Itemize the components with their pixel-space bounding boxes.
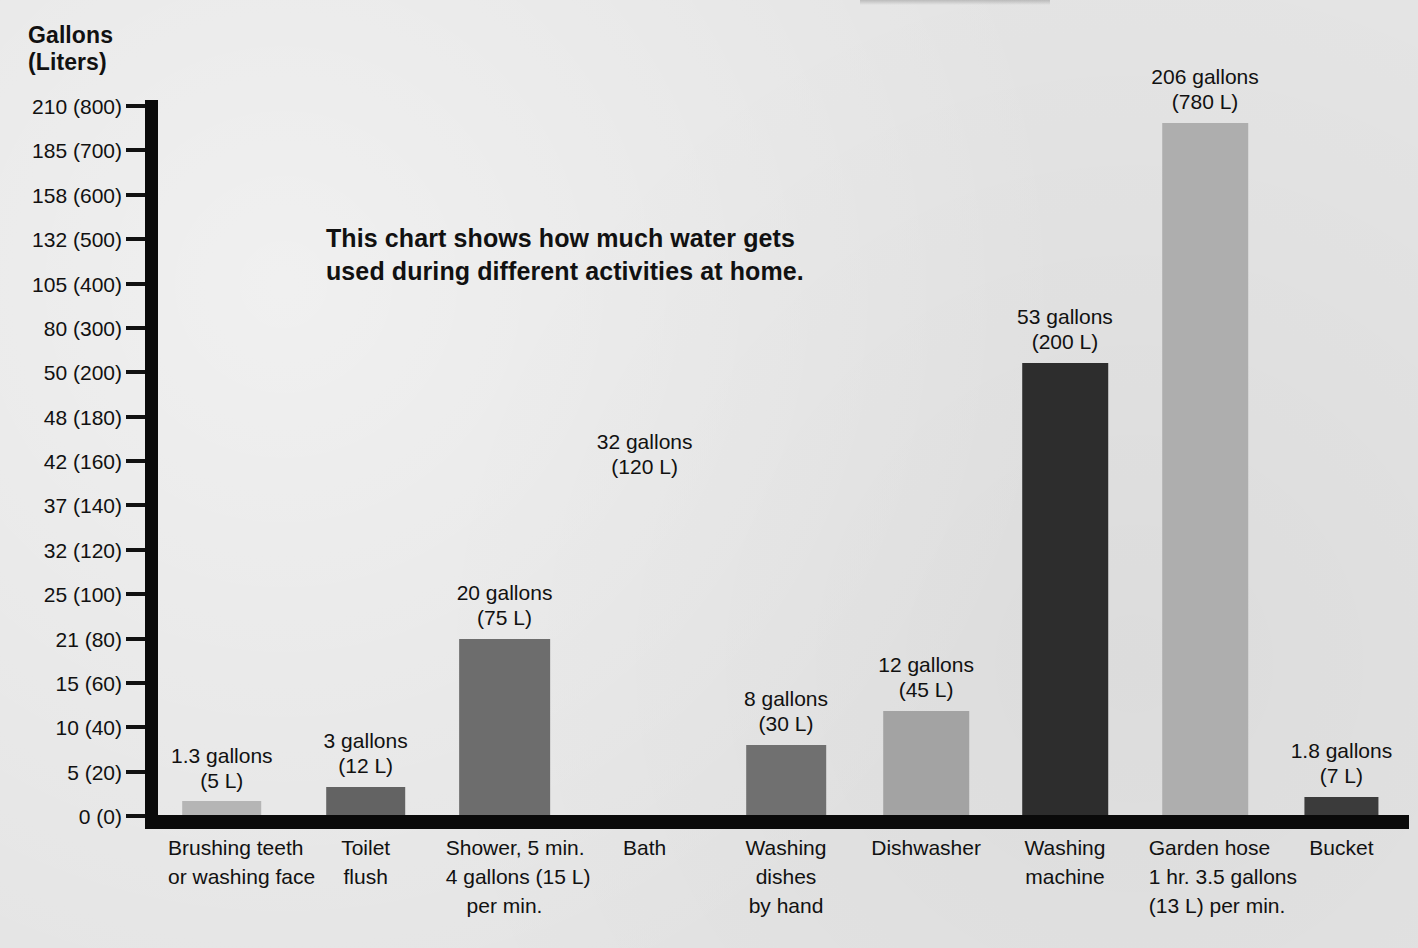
bar-washing-machine[interactable]	[1022, 363, 1108, 815]
bar-toilet-flush[interactable]	[326, 787, 406, 815]
bar-brushing-teeth[interactable]	[182, 801, 262, 815]
y-axis-tick-mark	[126, 370, 145, 374]
x-axis-label-washing-dishes: Washingdishesby hand	[732, 833, 840, 920]
chart-description: This chart shows how much water gets use…	[326, 222, 804, 288]
y-axis-tick-mark	[126, 282, 145, 286]
cropped-header-artifact	[860, 0, 1050, 5]
y-axis-tick-label: 185 (700)	[32, 140, 122, 161]
y-axis-line	[145, 100, 158, 822]
y-axis-tick-label: 158 (600)	[32, 184, 122, 205]
bar-bucket[interactable]	[1305, 797, 1378, 815]
bar-column-garden-hose[interactable]: 206 gallons(780 L)	[1149, 100, 1262, 815]
y-axis-tick-mark	[126, 459, 145, 463]
bar-value-label-liters: (12 L)	[324, 753, 408, 778]
bar-value-label-gallons: 8 gallons	[744, 686, 828, 711]
plot-area: 1.3 gallons(5 L)3 gallons(12 L)20 gallon…	[158, 100, 1409, 815]
x-axis-label-line2: or washing face	[168, 862, 276, 891]
y-axis-tick-mark	[126, 637, 145, 641]
bar-column-bath[interactable]: 32 gallons(120 L)	[591, 100, 699, 815]
x-axis-label-line2: flush	[312, 862, 420, 891]
x-axis-label-line2: 4 gallons (15 L)	[446, 862, 564, 891]
bar-column-toilet-flush[interactable]: 3 gallons(12 L)	[312, 100, 420, 815]
y-axis-tick-mark	[126, 237, 145, 241]
y-axis-tick-mark	[126, 548, 145, 552]
x-axis-label-line1: Shower, 5 min.	[446, 833, 564, 862]
y-axis-tick-label: 105 (400)	[32, 273, 122, 294]
bar-value-label-gallons: 206 gallons	[1151, 64, 1258, 89]
bar-value-label-brushing-teeth: 1.3 gallons(5 L)	[171, 743, 273, 793]
x-axis-line	[145, 815, 1409, 829]
bar-value-label-gallons: 3 gallons	[324, 728, 408, 753]
bar-value-label-liters: (5 L)	[171, 768, 273, 793]
bar-column-brushing-teeth[interactable]: 1.3 gallons(5 L)	[168, 100, 276, 815]
bar-value-label-bucket: 1.8 gallons(7 L)	[1291, 738, 1393, 788]
y-axis-tick-label: 210 (800)	[32, 96, 122, 117]
y-axis-tick-label: 42 (160)	[44, 451, 122, 472]
bar-value-label-liters: (200 L)	[1017, 329, 1113, 354]
x-axis-label-line1: Garden hose	[1149, 833, 1262, 862]
y-axis-tick-label: 15 (60)	[55, 672, 122, 693]
y-axis-tick-label: 132 (500)	[32, 229, 122, 250]
bar-value-label-liters: (120 L)	[597, 454, 693, 479]
bar-value-label-gallons: 20 gallons	[457, 580, 553, 605]
y-axis-tick-label: 48 (180)	[44, 406, 122, 427]
x-axis-label-toilet-flush: Toiletflush	[312, 833, 420, 891]
bar-value-label-gallons: 1.3 gallons	[171, 743, 273, 768]
bar-column-dishwasher[interactable]: 12 gallons(45 L)	[870, 100, 983, 815]
y-axis-tick-mark	[126, 814, 145, 818]
chart-description-line1: This chart shows how much water gets	[326, 222, 804, 255]
bar-value-label-dishwasher: 12 gallons(45 L)	[878, 652, 974, 702]
bar-column-washing-machine[interactable]: 53 gallons(200 L)	[1009, 100, 1122, 815]
chart-description-line2: used during different activities at home…	[326, 255, 804, 288]
y-axis-tick-label: 32 (120)	[44, 539, 122, 560]
y-axis-tick-label: 10 (40)	[55, 717, 122, 738]
bar-shower[interactable]	[459, 639, 551, 815]
bar-column-shower[interactable]: 20 gallons(75 L)	[446, 100, 564, 815]
x-axis-label-line1: Bucket	[1288, 833, 1396, 862]
y-axis-tick-mark	[126, 503, 145, 507]
x-axis-label-line2: machine	[1009, 862, 1122, 891]
x-axis-label-line3: by hand	[732, 891, 840, 920]
y-axis-tick-label: 37 (140)	[44, 495, 122, 516]
bar-garden-hose[interactable]	[1162, 123, 1248, 815]
bar-washing-dishes[interactable]	[746, 745, 826, 815]
bar-value-label-washing-machine: 53 gallons(200 L)	[1017, 304, 1113, 354]
x-axis-label-garden-hose: Garden hose1 hr. 3.5 gallons(13 L) per m…	[1149, 833, 1262, 920]
bar-value-label-gallons: 1.8 gallons	[1291, 738, 1393, 763]
bar-value-label-gallons: 12 gallons	[878, 652, 974, 677]
bar-column-washing-dishes[interactable]: 8 gallons(30 L)	[732, 100, 840, 815]
y-axis-tick-label: 5 (20)	[67, 761, 122, 782]
bar-value-label-bath: 32 gallons(120 L)	[597, 429, 693, 479]
y-axis-tick-mark	[126, 725, 145, 729]
x-axis-label-line1: Washing	[732, 833, 840, 862]
bar-column-bucket[interactable]: 1.8 gallons(7 L)	[1288, 100, 1396, 815]
x-axis-label-bucket: Bucket	[1288, 833, 1396, 862]
x-axis-label-line2: dishes	[732, 862, 840, 891]
bar-value-label-garden-hose: 206 gallons(780 L)	[1151, 64, 1258, 114]
x-axis-label-bath: Bath	[591, 833, 699, 862]
x-axis-label-line1: Washing	[1009, 833, 1122, 862]
y-axis-tick-labels: 210 (800)185 (700)158 (600)132 (500)105 …	[0, 0, 146, 948]
y-axis-tick-mark	[126, 415, 145, 419]
bar-value-label-shower: 20 gallons(75 L)	[457, 580, 553, 630]
bar-value-label-toilet-flush: 3 gallons(12 L)	[324, 728, 408, 778]
y-axis-tick-mark	[126, 104, 145, 108]
x-axis-label-brushing-teeth: Brushing teethor washing face	[168, 833, 276, 891]
y-axis-tick-label: 0 (0)	[79, 806, 122, 827]
bar-value-label-liters: (780 L)	[1151, 89, 1258, 114]
y-axis-tick-label: 50 (200)	[44, 362, 122, 383]
x-axis-label-line1: Bath	[591, 833, 699, 862]
bar-value-label-liters: (45 L)	[878, 677, 974, 702]
y-axis-tick-label: 25 (100)	[44, 584, 122, 605]
bar-value-label-washing-dishes: 8 gallons(30 L)	[744, 686, 828, 736]
bar-value-label-gallons: 53 gallons	[1017, 304, 1113, 329]
x-axis-label-shower: Shower, 5 min.4 gallons (15 L)per min.	[446, 833, 564, 920]
bar-dishwasher[interactable]	[883, 711, 969, 815]
x-axis-label-line1: Brushing teeth	[168, 833, 276, 862]
y-axis-tick-label: 21 (80)	[55, 628, 122, 649]
y-axis-tick-mark	[126, 592, 145, 596]
y-axis-tick-mark	[126, 148, 145, 152]
y-axis-tick-mark	[126, 326, 145, 330]
x-axis-label-line2: 1 hr. 3.5 gallons	[1149, 862, 1262, 891]
y-axis-tick-label: 80 (300)	[44, 317, 122, 338]
